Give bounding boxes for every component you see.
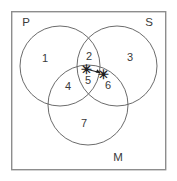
set-label-s: S — [145, 16, 153, 28]
region-label-4: 4 — [65, 80, 71, 92]
region-label-3: 3 — [127, 51, 133, 63]
venn-canvas: P S M 1 2 3 4 5 6 7 ✳ ✳ — [0, 0, 177, 181]
region-label-1: 1 — [42, 52, 48, 64]
set-label-m: M — [113, 151, 123, 163]
set-label-p: P — [22, 16, 30, 28]
region-label-7: 7 — [81, 117, 87, 129]
region-label-2: 2 — [86, 50, 92, 62]
venn-diagram: P S M 1 2 3 4 5 6 7 ✳ ✳ — [0, 0, 177, 181]
asterisk-mark-right: ✳ — [98, 67, 109, 82]
